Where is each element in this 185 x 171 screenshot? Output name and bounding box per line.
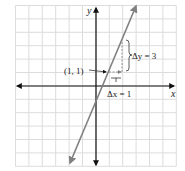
y-axis-label: y (86, 5, 92, 16)
point-label: (1, 1) (64, 66, 84, 76)
point-pointer (89, 70, 106, 72)
coordinate-plane: y x (1, 1) Δy = 3 Δx = 1 (0, 0, 185, 171)
delta-x-label: Δx = 1 (107, 89, 131, 99)
x-axis-label: x (170, 88, 176, 99)
delta-x-bracket (111, 78, 121, 82)
delta-y-label: Δy = 3 (132, 51, 157, 61)
